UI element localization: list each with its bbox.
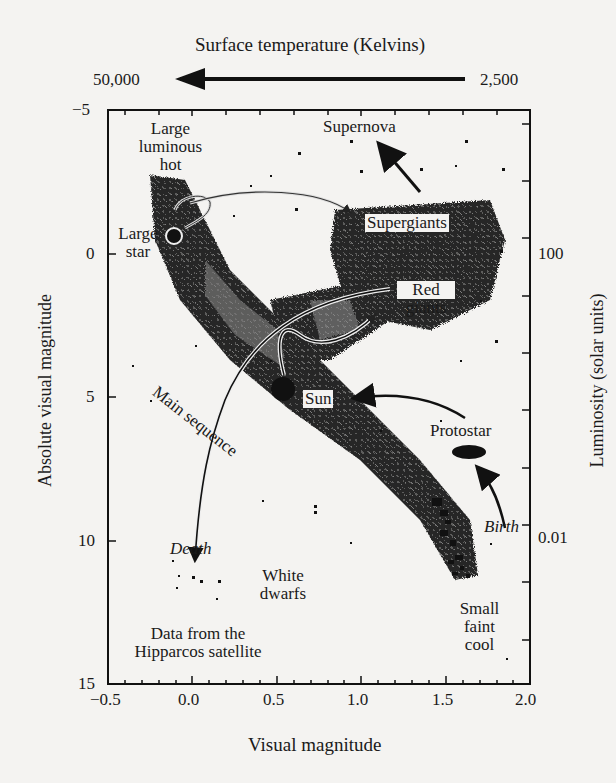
label-protostar: Protostar	[430, 422, 491, 440]
x-tick-label: 0.0	[178, 690, 199, 710]
y-tick-label: 0	[86, 244, 95, 264]
x-tick-label: 0.5	[263, 690, 284, 710]
y-axis-title: Absolute visual magnitude	[35, 281, 56, 501]
x-axis-title: Visual magnitude	[248, 734, 381, 756]
label-line: Hipparcos satellite	[113, 643, 283, 661]
y-ticks-right	[522, 124, 530, 640]
label-birth: Birth	[484, 518, 519, 536]
large-star-marker	[166, 228, 182, 244]
y2-axis-title: Luminosity (solar units)	[587, 271, 608, 491]
label-sun: Sun	[303, 390, 333, 408]
y2-tick-label: 0.01	[538, 528, 568, 548]
label-large-luminous-hot: Large luminous hot	[128, 120, 213, 174]
label-line: White	[253, 567, 313, 585]
label-line: luminous	[128, 138, 213, 156]
label-line: Red	[397, 281, 455, 299]
protostar-marker	[452, 445, 486, 459]
label-large-star: Large star	[114, 225, 162, 261]
x-tick-label: −0.5	[90, 690, 121, 710]
label-line: Large	[128, 120, 213, 138]
y-ticks-left	[108, 110, 116, 684]
y-tick-label: 10	[78, 531, 95, 551]
label-supernova: Supernova	[323, 118, 396, 136]
x-tick-label: 1.0	[347, 690, 368, 710]
x-tick-label: 2.0	[515, 690, 536, 710]
label-death: Death	[170, 540, 212, 558]
x-tick-label: 1.5	[432, 690, 453, 710]
label-line: cool	[452, 636, 507, 654]
label-red-giants: Red giants	[397, 281, 455, 317]
label-line: star	[114, 243, 162, 261]
label-line: Large	[114, 225, 162, 243]
supernova-arrow	[380, 145, 420, 192]
label-supergiants: Supergiants	[365, 214, 449, 232]
label-line: Data from the	[113, 625, 283, 643]
y-tick-label: 5	[86, 387, 95, 407]
label-small-faint-cool: Small faint cool	[452, 600, 507, 654]
sun-marker	[271, 377, 295, 401]
star-density	[150, 175, 505, 580]
y-tick-label: −5	[72, 100, 90, 120]
label-white-dwarfs: White dwarfs	[253, 567, 313, 603]
label-line: giants	[397, 299, 455, 317]
label-data-source: Data from the Hipparcos satellite	[113, 625, 283, 661]
label-line: hot	[128, 156, 213, 174]
label-line: dwarfs	[253, 585, 313, 603]
y2-tick-label: 100	[538, 244, 564, 264]
label-line: faint	[452, 618, 507, 636]
label-line: Small	[452, 600, 507, 618]
